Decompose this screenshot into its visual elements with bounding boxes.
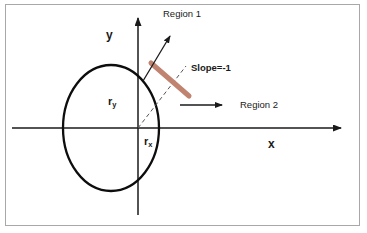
region1-label: Region 1 — [163, 9, 201, 19]
radius-x-subscript: x — [148, 140, 152, 149]
slope-label: Slope=-1 — [191, 63, 231, 73]
radius-y-subscript: y — [112, 100, 116, 109]
diagram-canvas — [0, 0, 367, 233]
figure-root: Region 1 Region 2 Slope=-1 ry rx y x — [0, 0, 367, 233]
radius-y-label: ry — [108, 96, 116, 107]
region2-label: Region 2 — [240, 100, 278, 110]
tangent-slope-segment — [151, 63, 189, 96]
x-axis-label: x — [268, 138, 275, 150]
radius-x-label: rx — [144, 136, 152, 147]
y-axis-label: y — [106, 29, 113, 41]
